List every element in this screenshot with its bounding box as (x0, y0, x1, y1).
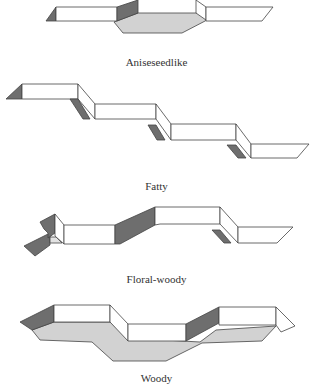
figure-label-fatty: Fatty (0, 180, 313, 192)
figure-label-woody: Woody (0, 372, 313, 384)
floral-woody-shape (24, 207, 293, 256)
woody-shape (20, 305, 295, 361)
figure-label-floral-woody: Floral-woody (0, 273, 313, 285)
fatty-shape (6, 84, 309, 158)
figure-label-aniseseedlike: Aniseseedlike (0, 56, 313, 68)
aniseseedlike-shape (46, 0, 273, 33)
